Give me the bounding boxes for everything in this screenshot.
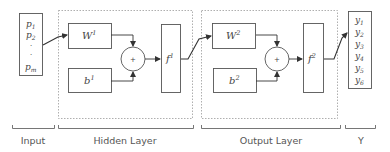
hidden-bias-block: b1 xyxy=(69,69,112,93)
output-vector: y1 y2 y3 y4 y5 y6 xyxy=(349,12,372,89)
hidden-layer-label: Hidden Layer xyxy=(93,135,156,146)
output-weight-block: W2 xyxy=(213,24,256,49)
y-bracket xyxy=(346,125,376,129)
input-vector: p1 p2 · · pm xyxy=(20,14,43,76)
network-diagram: p1 p2 · · pm W1 b1 + f1 W2 b2 + xyxy=(0,0,390,152)
arrow-w1-to-sum xyxy=(111,35,133,46)
hidden-bracket xyxy=(59,125,194,129)
svg-text:·: · xyxy=(30,51,32,59)
arrow-w2-to-sum xyxy=(256,35,277,46)
output-activation-block: f2 xyxy=(304,24,324,93)
input-label: Input xyxy=(21,135,46,146)
arrow-input-to-w1 xyxy=(43,35,67,45)
input-bracket xyxy=(13,125,55,129)
arrow-f2-to-y xyxy=(324,33,347,59)
output-bias-block: b2 xyxy=(214,69,257,93)
hidden-weight-block: W1 xyxy=(69,24,112,49)
hidden-sum-node: + xyxy=(121,47,145,71)
hidden-activation-block: f1 xyxy=(162,25,181,93)
svg-text:·: · xyxy=(30,42,32,50)
output-bracket xyxy=(202,125,341,129)
arrow-b1-to-sum xyxy=(111,72,133,81)
svg-text:+: + xyxy=(274,56,280,64)
arrow-f1-to-w2 xyxy=(181,36,211,59)
output-sum-node: + xyxy=(265,47,289,71)
output-layer-label: Output Layer xyxy=(240,135,303,146)
arrow-b2-to-sum xyxy=(256,72,277,81)
y-label: Y xyxy=(357,135,364,146)
svg-text:+: + xyxy=(130,56,136,64)
